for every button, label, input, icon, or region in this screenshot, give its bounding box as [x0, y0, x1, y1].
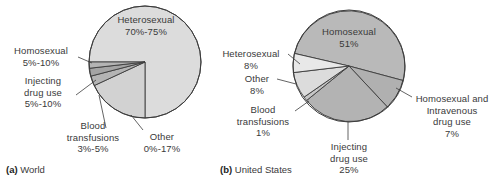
label-world-other-line1: Other — [133, 131, 191, 143]
label-world-heterosexual: Heterosexual 70%-75% — [98, 14, 194, 37]
label-us-homosexual: Homosexual 51% — [303, 26, 395, 49]
label-us-hiv-line4: 7% — [412, 128, 492, 140]
label-world-heterosexual-line2: 70%-75% — [98, 26, 194, 38]
label-us-injecting-line1: Injecting — [315, 141, 383, 153]
label-world-other-line2: 0%-17% — [133, 143, 191, 155]
caption-world-marker: (a) — [6, 164, 18, 175]
label-us-other: Other 8% — [236, 73, 278, 96]
label-world-blood-line1: Blood — [56, 120, 130, 132]
label-us-blood-line2: transfusions — [226, 116, 300, 128]
label-us-homosexual-and-iv-drug-use: Homosexual and Intravenous drug use 7% — [412, 93, 492, 139]
label-world-homosexual: Homosexual 5%-10% — [4, 45, 78, 68]
label-us-injecting-drug-use: Injecting drug use 25% — [315, 141, 383, 176]
caption-us-label: United States — [235, 164, 292, 175]
label-us-injecting-line2: drug use — [315, 153, 383, 165]
label-world-blood-transfusions: Blood transfusions 3%-5% — [56, 120, 130, 155]
label-us-hiv-line3: drug use — [412, 116, 492, 128]
caption-world-label: World — [20, 164, 45, 175]
caption-united-states: (b) United States — [220, 164, 292, 176]
label-us-homosexual-line2: 51% — [303, 38, 395, 50]
label-world-injecting-drug-use: Injecting drug use 5%-10% — [12, 75, 74, 110]
label-us-homosexual-line1: Homosexual — [303, 26, 395, 38]
label-world-blood-line2: transfusions — [56, 132, 130, 144]
leader-us-other — [277, 79, 296, 84]
label-us-heterosexual-line1: Heterosexual — [214, 48, 288, 60]
label-us-other-line1: Other — [236, 73, 278, 85]
label-us-injecting-line3: 25% — [315, 164, 383, 176]
label-world-homosexual-line2: 5%-10% — [4, 57, 78, 69]
label-us-hiv-line1: Homosexual and — [412, 93, 492, 105]
label-us-hiv-line2: Intravenous — [412, 105, 492, 117]
label-us-heterosexual: Heterosexual 8% — [214, 48, 288, 71]
label-us-blood-line3: 1% — [226, 127, 300, 139]
caption-us-marker: (b) — [220, 164, 232, 175]
label-us-blood-transfusions: Blood transfusions 1% — [226, 104, 300, 139]
label-us-blood-line1: Blood — [226, 104, 300, 116]
label-us-heterosexual-line2: 8% — [214, 60, 288, 72]
label-world-heterosexual-line1: Heterosexual — [98, 14, 194, 26]
figure-root: Heterosexual 70%-75% Homosexual 5%-10% I… — [0, 0, 494, 185]
label-world-injecting-line3: 5%-10% — [12, 98, 74, 110]
label-world-injecting-line1: Injecting — [12, 75, 74, 87]
label-us-other-line2: 8% — [236, 85, 278, 97]
label-world-other: Other 0%-17% — [133, 131, 191, 154]
label-world-injecting-line2: drug use — [12, 87, 74, 99]
caption-world: (a) World — [6, 164, 45, 176]
leader-world-injecting-drug-use — [76, 80, 96, 95]
label-world-homosexual-line1: Homosexual — [4, 45, 78, 57]
label-world-blood-line3: 3%-5% — [56, 143, 130, 155]
